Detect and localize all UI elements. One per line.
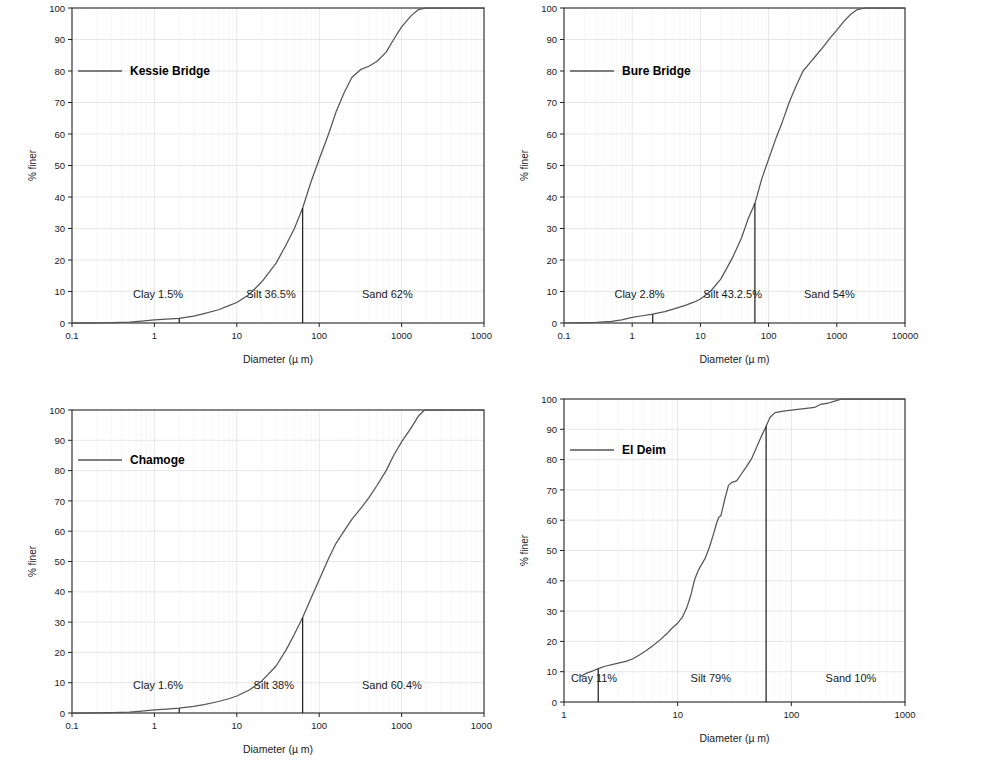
chart-svg-chamoge: 01020304050607080901000.1110100100010000… — [0, 387, 492, 774]
y-tick-label: 20 — [54, 255, 65, 266]
chart-svg-bure-bridge: 01020304050607080901000.1110100100010000… — [492, 0, 984, 387]
x-axis: 1101001000 — [561, 702, 915, 720]
chart-svg-kessie-bridge: 01020304050607080901000.1110100100010000… — [0, 0, 492, 387]
sand-fraction-label: Sand 60.4% — [362, 679, 422, 691]
x-axis-title: Diameter (µ m) — [699, 353, 769, 365]
x-tick-label: 100 — [783, 709, 799, 720]
y-tick-label: 70 — [546, 485, 557, 496]
y-tick-label: 10 — [546, 666, 557, 677]
fraction-dividers — [598, 426, 766, 702]
legend-label: Bure Bridge — [622, 64, 691, 78]
x-tick-label: 10 — [232, 720, 243, 731]
x-tick-label: 0.1 — [557, 330, 570, 341]
clay-fraction-label: Clay 11% — [571, 672, 617, 684]
y-tick-label: 100 — [49, 3, 65, 14]
legend-label: El Deim — [622, 443, 666, 457]
x-tick-label: 1000 — [826, 330, 847, 341]
y-axis: 0102030405060708090100 — [541, 3, 564, 329]
y-tick-label: 10 — [54, 677, 65, 688]
grid-horizontal — [72, 440, 484, 682]
x-tick-label: 100 — [761, 330, 777, 341]
x-axis-title: Diameter (µ m) — [243, 743, 313, 755]
x-axis-title: Diameter (µ m) — [243, 353, 313, 365]
x-tick-label: 0.1 — [65, 330, 78, 341]
y-axis: 0102030405060708090100 — [541, 394, 564, 708]
y-tick-label: 0 — [552, 318, 557, 329]
fraction-labels: Clay 1.6%Silt 38%Sand 60.4% — [133, 679, 422, 691]
y-tick-label: 20 — [546, 255, 557, 266]
y-tick-label: 50 — [546, 545, 557, 556]
legend-label: Kessie Bridge — [130, 64, 210, 78]
x-tick-label: 10000 — [471, 720, 492, 731]
y-tick-label: 90 — [546, 424, 557, 435]
y-tick-label: 40 — [54, 586, 65, 597]
y-tick-label: 80 — [54, 465, 65, 476]
grid-horizontal — [564, 429, 905, 671]
y-tick-label: 30 — [546, 606, 557, 617]
x-tick-label: 100 — [311, 330, 327, 341]
y-tick-label: 100 — [541, 394, 557, 405]
silt-fraction-label: Silt 36.5% — [246, 288, 296, 300]
y-axis-title: % finer — [519, 149, 530, 181]
legend-label: Chamoge — [130, 453, 185, 467]
fraction-dividers — [653, 203, 755, 323]
sand-fraction-label: Sand 54% — [804, 288, 855, 300]
fraction-dividers — [179, 618, 302, 713]
y-tick-label: 100 — [541, 3, 557, 14]
y-tick-label: 30 — [54, 223, 65, 234]
fraction-dividers — [179, 208, 302, 323]
y-tick-label: 40 — [54, 192, 65, 203]
y-tick-label: 50 — [54, 556, 65, 567]
x-tick-label: 1000 — [894, 709, 915, 720]
y-tick-label: 10 — [54, 286, 65, 297]
legend: Bure Bridge — [570, 64, 691, 78]
y-tick-label: 0 — [60, 708, 65, 719]
x-tick-label: 10 — [672, 709, 683, 720]
x-tick-label: 10000 — [892, 330, 918, 341]
silt-fraction-label: Silt 38% — [254, 679, 295, 691]
y-tick-label: 60 — [546, 129, 557, 140]
y-axis-title: % finer — [27, 545, 38, 577]
clay-fraction-label: Clay 1.6% — [133, 679, 183, 691]
fraction-labels: Clay 11%Silt 79%Sand 10% — [571, 672, 877, 684]
x-axis-title: Diameter (µ m) — [699, 732, 769, 744]
fraction-labels: Clay 1.5%Silt 36.5%Sand 62% — [133, 288, 413, 300]
silt-fraction-label: Silt 43.2.5% — [703, 288, 762, 300]
x-axis: 0.1110100100010000 — [65, 713, 492, 731]
x-tick-label: 10 — [695, 330, 706, 341]
y-tick-label: 90 — [54, 34, 65, 45]
y-axis-title: % finer — [519, 534, 530, 566]
y-tick-label: 90 — [546, 34, 557, 45]
y-tick-label: 40 — [546, 575, 557, 586]
x-tick-label: 1000 — [391, 720, 412, 731]
chart-grid: 01020304050607080901000.1110100100010000… — [0, 0, 984, 774]
chart-panel-chamoge: 01020304050607080901000.1110100100010000… — [0, 387, 492, 774]
y-tick-label: 20 — [54, 647, 65, 658]
y-tick-label: 40 — [546, 192, 557, 203]
y-tick-label: 70 — [54, 496, 65, 507]
x-tick-label: 1000 — [391, 330, 412, 341]
fraction-labels: Clay 2.8%Silt 43.2.5%Sand 54% — [614, 288, 854, 300]
data-curve-el-deim — [581, 399, 905, 676]
y-axis-title: % finer — [27, 149, 38, 181]
y-tick-label: 70 — [54, 97, 65, 108]
y-tick-label: 50 — [54, 160, 65, 171]
x-tick-label: 10000 — [471, 330, 492, 341]
x-tick-label: 100 — [311, 720, 327, 731]
sand-fraction-label: Sand 10% — [826, 672, 877, 684]
x-tick-label: 1 — [561, 709, 566, 720]
clay-fraction-label: Clay 1.5% — [133, 288, 183, 300]
x-tick-label: 1 — [152, 330, 157, 341]
y-tick-label: 0 — [60, 318, 65, 329]
chart-panel-bure-bridge: 01020304050607080901000.1110100100010000… — [492, 0, 984, 387]
y-tick-label: 60 — [54, 129, 65, 140]
x-axis: 0.1110100100010000 — [557, 323, 918, 341]
clay-fraction-label: Clay 2.8% — [614, 288, 664, 300]
chart-panel-el-deim: 01020304050607080901001101001000Diameter… — [492, 387, 984, 774]
legend: Kessie Bridge — [78, 64, 210, 78]
y-axis: 0102030405060708090100 — [49, 405, 72, 719]
y-tick-label: 20 — [546, 636, 557, 647]
silt-fraction-label: Silt 79% — [691, 672, 732, 684]
y-tick-label: 30 — [546, 223, 557, 234]
y-tick-label: 30 — [54, 617, 65, 628]
